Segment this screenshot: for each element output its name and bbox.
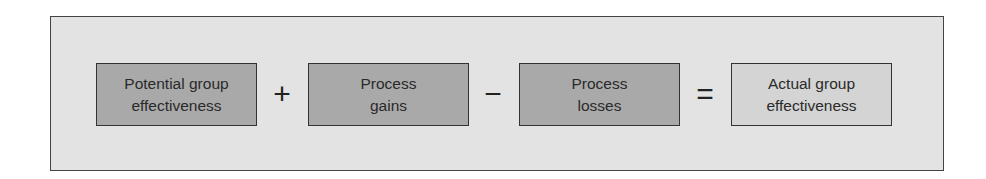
term-line: Potential group: [124, 75, 228, 92]
term-line: losses: [578, 97, 622, 114]
term-line: Process: [361, 75, 417, 92]
term-line: effectiveness: [766, 97, 856, 114]
term-line: Actual group: [768, 75, 855, 92]
equals-operator: =: [685, 74, 725, 114]
term-line: Process: [572, 75, 628, 92]
term-actual-group-effectiveness: Actual groupeffectiveness: [731, 63, 892, 126]
term-line: gains: [370, 97, 407, 114]
term-potential-group-effectiveness: Potential groupeffectiveness: [96, 63, 257, 126]
term-process-losses: Processlosses: [519, 63, 680, 126]
minus-operator: −: [473, 74, 513, 114]
term-process-gains: Processgains: [308, 63, 469, 126]
term-line: effectiveness: [131, 97, 221, 114]
plus-operator: +: [262, 74, 302, 114]
